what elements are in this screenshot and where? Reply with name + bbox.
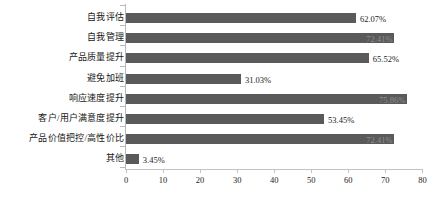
value-axis-tick bbox=[120, 106, 125, 107]
x-tick-label: 0 bbox=[111, 175, 141, 185]
x-axis-tick bbox=[311, 169, 312, 173]
category-label: 自我评估 bbox=[87, 12, 124, 23]
x-tick-label: 70 bbox=[370, 175, 400, 185]
value-label: 62.07% bbox=[360, 14, 386, 24]
x-tick-label: 20 bbox=[185, 175, 215, 185]
category-label: 客户/用户满意度提升 bbox=[38, 113, 124, 124]
value-label: 72.41% bbox=[366, 34, 392, 44]
value-label: 3.45% bbox=[143, 155, 165, 165]
x-tick-label: 50 bbox=[296, 175, 326, 185]
value-label: 31.03% bbox=[245, 75, 271, 85]
x-axis-tick bbox=[422, 169, 423, 173]
bar bbox=[126, 13, 356, 23]
category-label: 产品价值把控/高性价比 bbox=[29, 133, 124, 144]
bar bbox=[126, 114, 324, 124]
x-tick-label: 30 bbox=[222, 175, 252, 185]
x-axis-tick bbox=[385, 169, 386, 173]
value-axis-tick bbox=[120, 66, 125, 67]
value-axis-tick bbox=[120, 25, 125, 26]
value-axis-tick bbox=[120, 167, 125, 168]
category-label: 自我管理 bbox=[87, 32, 124, 43]
value-axis-tick bbox=[120, 86, 125, 87]
x-axis-tick bbox=[348, 169, 349, 173]
bar bbox=[126, 154, 139, 164]
x-axis-tick bbox=[237, 169, 238, 173]
bar bbox=[126, 74, 241, 84]
bar bbox=[126, 33, 394, 43]
bar bbox=[126, 53, 369, 63]
category-label: 产品质量提升 bbox=[69, 52, 124, 63]
value-axis-line bbox=[125, 4, 126, 169]
value-label: 65.52% bbox=[373, 54, 399, 64]
x-axis-tick bbox=[200, 169, 201, 173]
x-axis-tick bbox=[274, 169, 275, 173]
value-axis-tick bbox=[120, 5, 125, 6]
value-axis-tick bbox=[120, 146, 125, 147]
value-axis-tick bbox=[120, 126, 125, 127]
x-tick-label: 60 bbox=[333, 175, 363, 185]
category-label: 其他 bbox=[106, 153, 124, 164]
value-label: 72.41% bbox=[366, 135, 392, 145]
category-label: 避免加班 bbox=[87, 73, 124, 84]
bar bbox=[126, 94, 407, 104]
value-axis-tick bbox=[120, 45, 125, 46]
horizontal-bar-chart: 自我评估自我管理产品质量提升避免加班响应速度提升客户/用户满意度提升产品价值把控… bbox=[0, 0, 442, 203]
x-axis-tick bbox=[163, 169, 164, 173]
x-tick-label: 10 bbox=[148, 175, 178, 185]
x-tick-label: 80 bbox=[407, 175, 437, 185]
x-axis-tick bbox=[126, 169, 127, 173]
bar bbox=[126, 134, 394, 144]
value-label: 53.45% bbox=[328, 115, 354, 125]
category-label: 响应速度提升 bbox=[69, 93, 124, 104]
value-label: 75.86% bbox=[379, 95, 405, 105]
x-tick-label: 40 bbox=[259, 175, 289, 185]
